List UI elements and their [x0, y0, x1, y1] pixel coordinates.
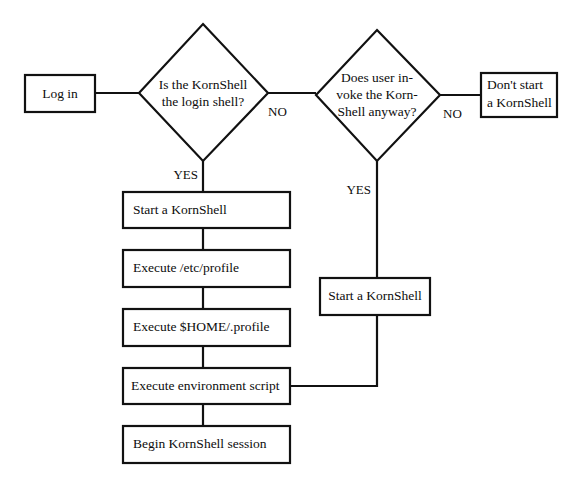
- connector-start-right-to-env-script: [290, 315, 377, 386]
- decision-login-shell-line2: the login shell?: [162, 94, 244, 109]
- edge-label-invoke-anyway-no: NO: [443, 106, 462, 121]
- node-execute-etc-profile-emphasis: /etc/profile: [180, 260, 239, 275]
- node-start-kornshell-left-label: Start a KornShell: [133, 202, 227, 217]
- node-dont-start-line1: Don't start: [487, 77, 543, 92]
- node-execute-env-script[interactable]: Execute environment script: [123, 368, 290, 404]
- node-execute-etc-profile-prefix: Execute: [133, 260, 180, 275]
- node-execute-etc-profile-label: Execute /etc/profile: [133, 260, 239, 275]
- node-execute-home-profile[interactable]: Execute $HOME/.profile: [123, 309, 290, 346]
- decision-login-shell-diamond: [139, 24, 268, 161]
- node-execute-etc-profile[interactable]: Execute /etc/profile: [123, 250, 290, 287]
- node-login[interactable]: Log in: [25, 75, 95, 112]
- decision-invoke-anyway-line1: Does user in-: [341, 70, 413, 85]
- edge-label-invoke-anyway-yes: YES: [346, 182, 371, 197]
- flowchart-canvas: Is the KornShell the login shell? Does u…: [0, 0, 582, 483]
- edge-label-login-shell-no: NO: [268, 104, 287, 119]
- decision-invoke-anyway[interactable]: Does user in- voke the Korn- Shell anywa…: [316, 30, 440, 161]
- node-dont-start[interactable]: Don't start a KornShell: [481, 73, 557, 117]
- decision-invoke-anyway-line3: Shell anyway?: [337, 104, 416, 119]
- node-execute-home-profile-prefix: Execute: [133, 319, 180, 334]
- node-execute-home-profile-label: Execute $HOME/.profile: [133, 319, 269, 334]
- decision-login-shell-line1: Is the KornShell: [159, 77, 248, 92]
- node-execute-home-profile-emphasis: $HOME/.profile: [180, 319, 270, 334]
- node-execute-env-script-label: Execute environment script: [131, 378, 280, 393]
- node-start-kornshell-right[interactable]: Start a KornShell: [320, 278, 430, 315]
- node-start-kornshell-right-label: Start a KornShell: [328, 288, 422, 303]
- decision-invoke-anyway-line2: voke the Korn-: [336, 87, 418, 102]
- edge-label-login-shell-yes: YES: [173, 167, 198, 182]
- node-begin-session[interactable]: Begin KornShell session: [123, 426, 290, 463]
- node-login-label: Log in: [42, 86, 78, 101]
- node-begin-session-label: Begin KornShell session: [133, 436, 267, 451]
- flowchart-svg: Is the KornShell the login shell? Does u…: [0, 0, 582, 483]
- decision-login-shell[interactable]: Is the KornShell the login shell?: [139, 24, 268, 161]
- node-dont-start-line2: a KornShell: [487, 95, 552, 110]
- node-start-kornshell-left[interactable]: Start a KornShell: [123, 192, 290, 228]
